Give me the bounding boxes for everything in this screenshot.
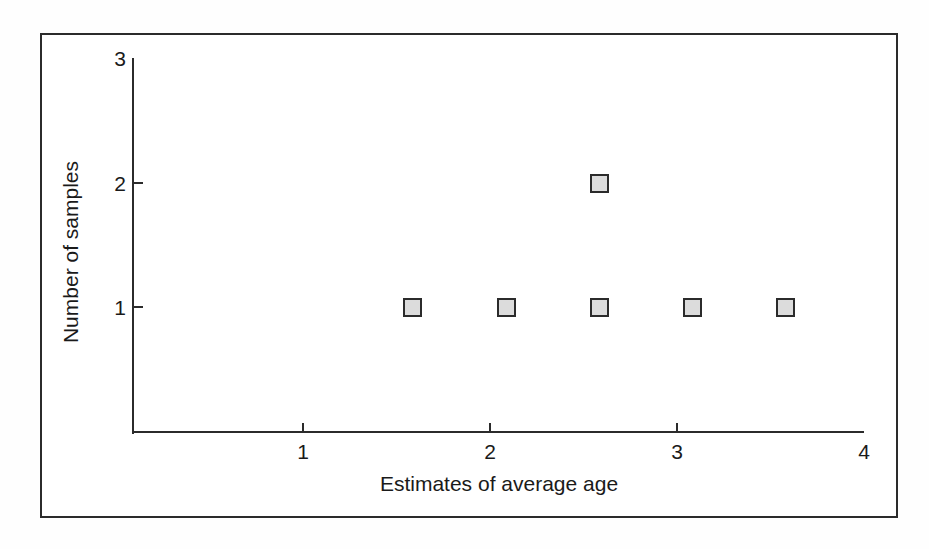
plot-area: 1 2 3 4 1 2 3 Estimates of average age N…: [0, 0, 929, 549]
y-tick-label-2: 2: [96, 172, 126, 196]
data-point-marker: [590, 298, 609, 317]
data-point-marker: [590, 174, 609, 193]
y-axis-title: Number of samples: [59, 142, 83, 362]
x-tick-label-1: 1: [283, 440, 323, 464]
x-axis-title: Estimates of average age: [133, 472, 865, 496]
figure-container: 1 2 3 4 1 2 3 Estimates of average age N…: [0, 0, 929, 549]
data-point-marker: [776, 298, 795, 317]
data-point-marker: [497, 298, 516, 317]
x-tick-2: [489, 423, 491, 432]
x-tick-label-2: 2: [470, 440, 510, 464]
y-tick-1: [133, 306, 143, 308]
x-axis-line: [132, 431, 864, 433]
y-tick-2: [133, 182, 143, 184]
x-tick-1: [302, 423, 304, 432]
x-tick-label-3: 3: [657, 440, 697, 464]
x-tick-3: [676, 423, 678, 432]
y-tick-label-3: 3: [96, 47, 126, 71]
data-point-marker: [683, 298, 702, 317]
y-axis-line: [132, 58, 134, 434]
data-point-marker: [403, 298, 422, 317]
y-tick-label-1: 1: [96, 296, 126, 320]
x-tick-label-4: 4: [844, 440, 884, 464]
